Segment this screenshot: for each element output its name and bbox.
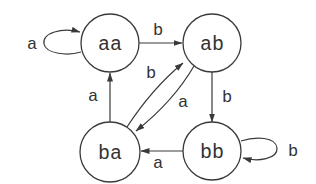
edge-label-bb-bb: b <box>288 142 298 161</box>
edge-label-aa-aa: a <box>27 35 37 54</box>
node-aa: aa <box>81 14 139 72</box>
edge-label-bb-ba: a <box>153 154 163 173</box>
edge-bb-bb-self-loop <box>241 138 277 160</box>
node-ba: ba <box>80 122 140 182</box>
node-bb: bb <box>183 122 241 180</box>
edge-label-ba-ab: b <box>146 64 156 83</box>
edge-label-ab-bb: b <box>222 88 232 107</box>
state-diagram: a b b b a a b a aa ab ba bb <box>0 0 316 184</box>
edge-label-ab-ba: a <box>178 93 188 112</box>
edge-aa-aa-self-loop <box>44 30 81 54</box>
edge-label-aa-ab: b <box>153 21 163 40</box>
node-label-ba: ba <box>98 142 122 165</box>
edges: a b b b a a b a <box>27 21 298 173</box>
edge-label-ba-aa: a <box>88 87 98 106</box>
node-label-bb: bb <box>200 141 224 164</box>
node-label-ab: ab <box>200 33 224 56</box>
node-label-aa: aa <box>98 33 122 56</box>
node-ab: ab <box>183 14 241 72</box>
